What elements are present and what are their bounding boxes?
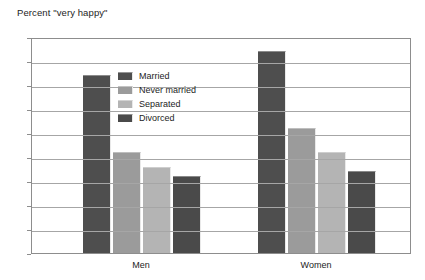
bar bbox=[258, 51, 286, 253]
legend-label: Never married bbox=[139, 86, 196, 95]
x-tick-label: Men bbox=[132, 260, 150, 270]
bar bbox=[83, 75, 111, 253]
legend-item: Never married bbox=[118, 83, 196, 97]
gridline bbox=[32, 231, 410, 232]
legend-swatch bbox=[118, 86, 133, 94]
bar bbox=[143, 167, 171, 253]
legend-swatch bbox=[118, 100, 133, 108]
legend-swatch bbox=[118, 114, 133, 122]
bars-layer bbox=[32, 39, 410, 253]
bar bbox=[173, 176, 201, 253]
bar bbox=[318, 152, 346, 253]
legend-label: Married bbox=[139, 72, 170, 81]
chart-container: Percent "very happy" 051015202530354045 … bbox=[0, 0, 425, 280]
chart-legend: MarriedNever marriedSeparatedDivorced bbox=[118, 69, 196, 125]
legend-item: Divorced bbox=[118, 111, 196, 125]
gridline bbox=[32, 207, 410, 208]
legend-label: Divorced bbox=[139, 114, 175, 123]
bar bbox=[113, 152, 141, 253]
legend-item: Separated bbox=[118, 97, 196, 111]
gridline bbox=[32, 135, 410, 136]
gridline bbox=[32, 183, 410, 184]
x-tick-label: Women bbox=[301, 260, 332, 270]
plot-area bbox=[31, 38, 411, 254]
gridline bbox=[32, 111, 410, 112]
bar bbox=[288, 128, 316, 253]
y-tick-mark bbox=[27, 254, 31, 255]
gridline bbox=[32, 87, 410, 88]
gridline bbox=[32, 63, 410, 64]
legend-label: Separated bbox=[139, 100, 181, 109]
legend-swatch bbox=[118, 72, 133, 80]
gridline bbox=[32, 159, 410, 160]
chart-title: Percent "very happy" bbox=[17, 7, 108, 18]
legend-item: Married bbox=[118, 69, 196, 83]
